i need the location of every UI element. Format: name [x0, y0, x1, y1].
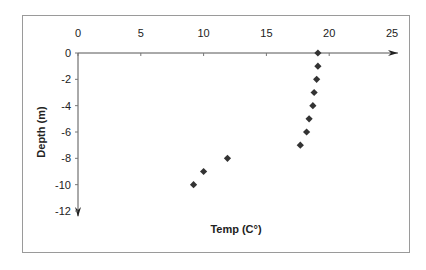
- data-point-diamond: [303, 128, 310, 135]
- data-points: [190, 49, 322, 188]
- scatter-chart: 05101520250-2-4-6-8-10-12 Temp (C°) Dept…: [0, 0, 426, 270]
- data-point-diamond: [297, 142, 304, 149]
- data-point-diamond: [313, 76, 320, 83]
- y-tick-label: 0: [65, 47, 71, 59]
- x-tick-label: 10: [197, 27, 209, 39]
- data-point-diamond: [314, 63, 321, 70]
- data-point-diamond: [306, 115, 313, 122]
- y-tick-label: -8: [61, 152, 71, 164]
- x-tick-label: 0: [75, 27, 81, 39]
- x-tick-label: 15: [260, 27, 272, 39]
- x-tick-label: 20: [323, 27, 335, 39]
- y-tick-label: -6: [61, 126, 71, 138]
- y-tick-label: -2: [61, 73, 71, 85]
- data-point-diamond: [200, 168, 207, 175]
- data-point-diamond: [311, 89, 318, 96]
- chart-ticks: 05101520250-2-4-6-8-10-12: [55, 27, 398, 217]
- data-point-diamond: [190, 181, 197, 188]
- x-tick-label: 25: [386, 27, 398, 39]
- x-tick-label: 5: [138, 27, 144, 39]
- data-point-diamond: [314, 49, 321, 56]
- data-point-diamond: [309, 102, 316, 109]
- y-tick-label: -12: [55, 205, 71, 217]
- chart-axes: [75, 50, 398, 217]
- y-tick-label: -4: [61, 100, 71, 112]
- y-axis-title: Depth (m): [35, 106, 47, 158]
- x-axis-title: Temp (C°): [210, 223, 262, 235]
- data-point-diamond: [224, 155, 231, 162]
- y-tick-label: -10: [55, 179, 71, 191]
